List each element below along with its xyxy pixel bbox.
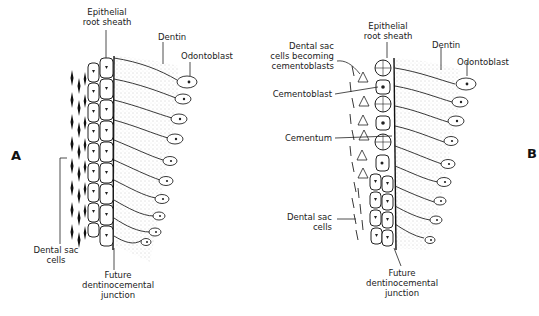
label-line: root sheath — [82, 17, 132, 27]
panel-letter-a: A — [11, 148, 21, 163]
label-dentin-b: Dentin — [432, 40, 460, 50]
label-future-junction-a: Future dentinocemental junction — [78, 270, 158, 300]
label-line: Dental sac — [28, 245, 84, 255]
panel-letter-b: B — [527, 146, 537, 161]
label-epithelial-root-sheath-a: Epithelial root sheath — [82, 7, 132, 27]
label-line: junction — [78, 290, 158, 300]
label-line: cells — [270, 222, 332, 232]
label-dental-sac-becoming-cementoblasts-b: Dental sac cells becoming cementoblasts — [260, 41, 334, 71]
label-future-junction-b: Future dentinocemental junction — [362, 268, 442, 298]
label-line: cells — [28, 255, 84, 265]
label-dental-sac-cells-b: Dental sac cells — [270, 212, 332, 232]
dental-sac-cells-a — [71, 70, 87, 248]
label-odontoblast-a: Odontoblast — [181, 51, 233, 61]
label-line: cells becoming — [260, 51, 334, 61]
label-dentin-a: Dentin — [158, 32, 186, 42]
label-line: Future — [78, 270, 158, 280]
epithelial-root-sheath-cells-a — [88, 58, 113, 246]
label-line: dentinocemental — [362, 278, 442, 288]
label-line: junction — [362, 288, 442, 298]
label-line: Future — [362, 268, 442, 278]
label-line: Dental sac — [270, 212, 332, 222]
label-epithelial-root-sheath-b: Epithelial root sheath — [363, 21, 413, 41]
label-line: root sheath — [363, 31, 413, 41]
dentin-region-b — [395, 58, 460, 250]
label-line: Epithelial — [82, 7, 132, 17]
panel-a-drawing — [60, 30, 197, 270]
cementoblasts-b — [357, 72, 369, 178]
label-line: Epithelial — [363, 21, 413, 31]
label-line: dentinocemental — [78, 280, 158, 290]
label-line: cementoblasts — [260, 61, 334, 71]
label-cementum-b: Cementum — [260, 133, 332, 143]
label-line: Dental sac — [260, 41, 334, 51]
label-dental-sac-cells-a: Dental sac cells — [28, 245, 84, 265]
label-odontoblast-b: Odontoblast — [457, 57, 509, 67]
panel-b-drawing — [335, 42, 476, 266]
label-cementoblast-b: Cementoblast — [260, 89, 332, 99]
